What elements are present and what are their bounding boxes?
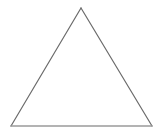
canvas-background bbox=[0, 0, 165, 140]
drawing-canvas bbox=[0, 0, 165, 140]
triangle-figure bbox=[0, 0, 165, 140]
